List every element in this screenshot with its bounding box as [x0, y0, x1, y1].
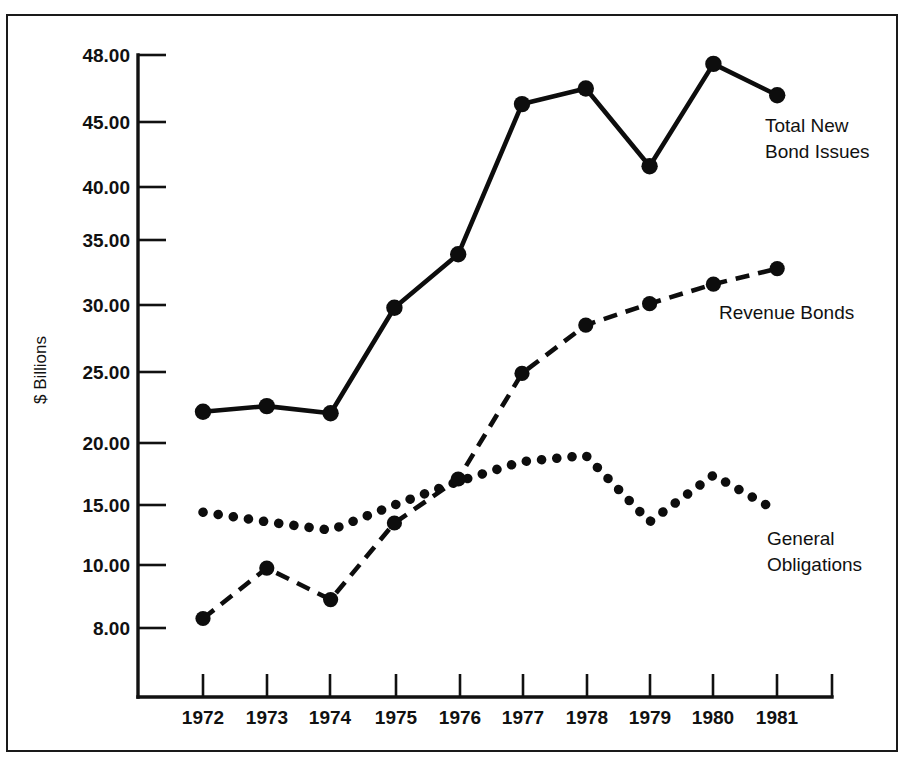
- x-tick-label: 1980: [692, 707, 734, 728]
- y-tick-label: 20.00: [82, 433, 130, 454]
- series-markers-total-new-bond-issues: [195, 56, 786, 422]
- data-point: [322, 405, 338, 421]
- x-tick-label: 1981: [756, 707, 799, 728]
- data-point: [770, 261, 785, 276]
- annotation-line-1: General: [767, 528, 835, 549]
- data-point: [578, 318, 593, 333]
- series-markers-revenue-bonds: [195, 261, 784, 626]
- data-point: [705, 56, 721, 72]
- data-point: [195, 611, 210, 626]
- data-point: [195, 404, 211, 420]
- y-tick-label: 10.00: [82, 555, 130, 576]
- data-point: [386, 300, 402, 316]
- annotation-line-2: Obligations: [767, 554, 862, 575]
- annotation-line-2: Bond Issues: [765, 141, 870, 162]
- data-point: [514, 96, 530, 112]
- series-line-revenue-bonds: [203, 269, 777, 619]
- y-tick-labels: 48.00 45.00 40.00 35.00 30.00 25.00 20.0…: [82, 45, 130, 639]
- y-tick-label: 45.00: [82, 112, 130, 133]
- x-tick-label: 1973: [246, 707, 288, 728]
- x-tick-label: 1979: [629, 707, 671, 728]
- data-point: [514, 366, 529, 381]
- annotation-general-obligations: General Obligations: [767, 528, 862, 575]
- annotation-revenue-bonds: Revenue Bonds: [719, 302, 854, 323]
- x-tick-label: 1976: [439, 707, 481, 728]
- y-tick-label: 8.00: [93, 618, 130, 639]
- y-tick-label: 30.00: [82, 295, 130, 316]
- annotation-line-1: Revenue Bonds: [719, 302, 854, 323]
- y-axis-title: $ Billions: [31, 336, 50, 404]
- data-point: [578, 80, 594, 96]
- y-tick-label: 25.00: [82, 362, 130, 383]
- y-tick-label: 15.00: [82, 495, 130, 516]
- data-point: [769, 87, 785, 103]
- x-tick-label: 1977: [502, 707, 544, 728]
- y-tick-label: 48.00: [82, 45, 130, 66]
- data-point: [641, 158, 657, 174]
- annotation-total-new-bond-issues: Total New Bond Issues: [765, 115, 870, 162]
- series-line-total-new-bond-issues: [203, 64, 777, 413]
- x-tick-labels: 1972 1973 1974 1975 1976 1977 1978 1979 …: [182, 707, 799, 728]
- series-group: [195, 56, 786, 626]
- x-tick-label: 1974: [309, 707, 352, 728]
- series-line-general-obligations: [203, 455, 777, 530]
- x-tick-label: 1978: [566, 707, 608, 728]
- y-tick-label: 40.00: [82, 177, 130, 198]
- data-point: [642, 296, 657, 311]
- x-tick-label: 1975: [375, 707, 418, 728]
- annotation-line-1: Total New: [765, 115, 849, 136]
- y-tick-label: 35.00: [82, 230, 130, 251]
- data-point: [450, 246, 466, 262]
- chart-figure: 48.00 45.00 40.00 35.00 30.00 25.00 20.0…: [0, 0, 905, 765]
- x-tickmarks: [203, 674, 832, 697]
- chart-plot-area: 48.00 45.00 40.00 35.00 30.00 25.00 20.0…: [0, 0, 905, 765]
- data-point: [451, 471, 466, 486]
- data-point: [259, 561, 274, 576]
- data-point: [323, 592, 338, 607]
- data-point: [706, 277, 721, 292]
- y-tickmarks: [138, 55, 166, 628]
- data-point: [259, 398, 275, 414]
- data-point: [387, 515, 402, 530]
- x-tick-label: 1972: [182, 707, 224, 728]
